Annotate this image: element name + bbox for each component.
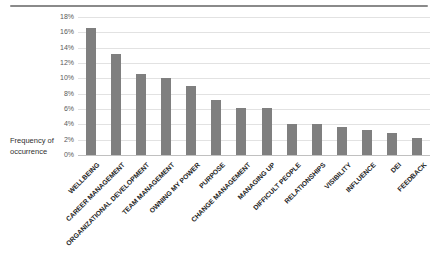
- bar-dei: [387, 133, 397, 155]
- y-axis-tick-label: 16%: [44, 28, 74, 35]
- y-axis-tick-label: 18%: [44, 13, 74, 20]
- y-gridline: [78, 140, 430, 141]
- y-gridline: [78, 78, 430, 79]
- x-axis-category-label: OWNING MY POWER: [148, 161, 202, 215]
- y-gridline: [78, 48, 430, 49]
- bar-wellbeing: [86, 28, 96, 155]
- bar-relationships: [312, 124, 322, 155]
- y-axis-tick-label: 6%: [44, 105, 74, 112]
- bar-difficult-people: [287, 124, 297, 155]
- bar-career-management: [111, 54, 121, 155]
- bar-visibility: [337, 127, 347, 155]
- y-gridline: [78, 63, 430, 64]
- x-axis-line: [78, 155, 430, 156]
- x-axis-category-label: DEI: [389, 161, 403, 175]
- bar-organizational-development: [136, 74, 146, 155]
- y-axis-tick-label: 8%: [44, 90, 74, 97]
- bar-managing-up: [262, 108, 272, 155]
- top-divider-line: [10, 5, 428, 7]
- bar-change-management: [236, 108, 246, 155]
- y-axis-tick-label: 0%: [44, 151, 74, 158]
- bar-team-management: [161, 78, 171, 155]
- y-axis-tick-label: 2%: [44, 136, 74, 143]
- y-gridline: [78, 124, 430, 125]
- y-gridline: [78, 109, 430, 110]
- y-axis-tick-label: 4%: [44, 120, 74, 127]
- y-axis-tick-label: 12%: [44, 59, 74, 66]
- y-axis-tick-label: 10%: [44, 74, 74, 81]
- bar-purpose: [211, 100, 221, 155]
- y-gridline: [78, 94, 430, 95]
- bar-influence: [362, 130, 372, 155]
- y-axis-tick-label: 14%: [44, 44, 74, 51]
- y-gridline: [78, 32, 430, 33]
- bar-owning-my-power: [186, 86, 196, 155]
- bar-feedback: [412, 138, 422, 155]
- bar-chart-plot-area: 0%2%4%6%8%10%12%14%16%18%WELLBEINGCAREER…: [78, 17, 430, 155]
- y-gridline: [78, 17, 430, 18]
